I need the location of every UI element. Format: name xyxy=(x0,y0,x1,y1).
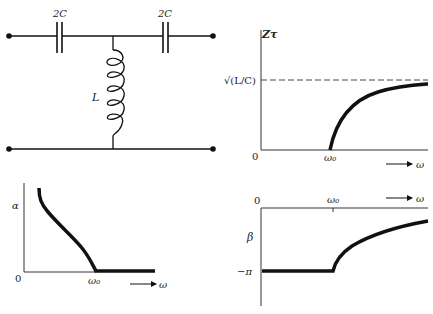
impedance-plot: Zτ √(L/C) 0 ω₀ ω xyxy=(224,28,428,170)
capacitor-left-label: 2C xyxy=(52,8,67,19)
terminal-top-left-icon xyxy=(6,33,12,39)
asymptote-label: √(L/C) xyxy=(224,75,256,86)
phase-level-label: −π xyxy=(237,266,252,277)
phase-xlabel: ω xyxy=(416,193,424,204)
capacitor-left-icon xyxy=(57,22,62,53)
attenuation-ylabel: α xyxy=(12,200,19,211)
terminal-top-right-icon xyxy=(210,33,216,39)
impedance-curve xyxy=(330,84,428,150)
circuit-diagram: 2C 2C L xyxy=(6,8,216,152)
phase-origin-label: 0 xyxy=(254,195,260,206)
inductor-label: L xyxy=(91,91,99,104)
impedance-xlabel: ω xyxy=(416,159,424,170)
attenuation-plot: α 0 ω₀ ω xyxy=(12,183,167,290)
attenuation-origin-label: 0 xyxy=(15,273,21,284)
attenuation-cutoff-label: ω₀ xyxy=(88,275,100,286)
impedance-origin-label: 0 xyxy=(252,151,258,162)
impedance-ylabel: Zτ xyxy=(261,28,278,41)
phase-curve xyxy=(262,221,428,271)
attenuation-curve xyxy=(39,188,155,271)
attenuation-xlabel: ω xyxy=(159,279,167,290)
inductor-icon xyxy=(107,36,124,149)
capacitor-right-label: 2C xyxy=(157,8,172,19)
phase-ylabel: β xyxy=(246,231,253,244)
capacitor-right-icon xyxy=(163,22,168,53)
phase-plot: 0 ω₀ ω β −π xyxy=(237,193,428,306)
impedance-cutoff-label: ω₀ xyxy=(324,152,336,163)
phase-cutoff-label: ω₀ xyxy=(327,194,339,205)
